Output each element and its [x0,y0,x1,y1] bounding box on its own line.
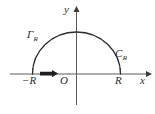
label-c-r-symbol: C [115,47,122,59]
label-gamma-r-symbol: Γ [27,28,33,40]
label-pos-r: R [115,75,122,86]
direction-arrow-icon [40,70,58,77]
figure-canvas [0,0,155,114]
label-y-axis: y [64,4,69,15]
label-gamma-r-subscript: R [34,35,38,43]
label-x-axis: x [140,75,145,86]
label-origin: O [60,75,68,86]
label-gamma-r: ΓR [27,29,38,43]
x-axis-arrowhead [146,71,152,77]
label-neg-r: −R [22,75,36,86]
label-c-r: CR [115,48,127,62]
complex-plane-contour-figure: ΓR CR y x O −R R [0,0,155,114]
y-axis-arrowhead [74,6,80,12]
label-c-r-subscript: R [123,54,127,62]
